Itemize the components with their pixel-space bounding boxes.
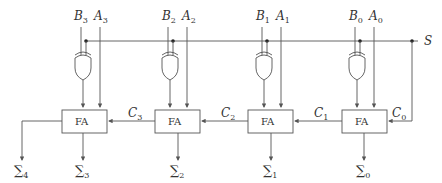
- svg-text:∑4: ∑4: [14, 163, 28, 180]
- label-s: S: [424, 34, 432, 48]
- svg-text:FA: FA: [75, 116, 89, 127]
- svg-text:A1: A1: [275, 9, 290, 25]
- stage-0: B0 A0 FA ∑0: [342, 9, 387, 180]
- adder-subtractor-diagram: S B3 A3 FA ∑3 ∑4 C3 B2 A2 FA ∑2 C2: [0, 0, 442, 183]
- svg-text:∑3: ∑3: [75, 163, 89, 180]
- stage-2: B2 A2 FA ∑2: [155, 9, 200, 180]
- label-b3: B3: [73, 9, 88, 25]
- svg-text:∑1: ∑1: [263, 163, 277, 180]
- xor-gate-icon: [75, 52, 91, 80]
- xor-gate-icon: [162, 52, 178, 80]
- label-c1: C1: [314, 106, 328, 122]
- svg-text:∑2: ∑2: [170, 163, 184, 180]
- svg-text:A0: A0: [368, 9, 383, 25]
- svg-text:FA: FA: [355, 116, 369, 127]
- label-c3: C3: [128, 106, 142, 122]
- svg-text:B1: B1: [255, 9, 270, 25]
- xor-gate-icon: [256, 52, 272, 80]
- label-c2: C2: [221, 106, 235, 122]
- svg-text:A2: A2: [181, 9, 196, 25]
- xor-gate-icon: [349, 52, 365, 80]
- stage-1: B1 A1 FA ∑1: [248, 9, 293, 180]
- svg-text:∑0: ∑0: [356, 163, 370, 180]
- label-c0: C0: [392, 106, 406, 122]
- svg-text:FA: FA: [261, 116, 275, 127]
- stage-3: B3 A3 FA ∑3 ∑4: [14, 9, 108, 180]
- label-a3: A3: [93, 9, 108, 25]
- svg-text:B0: B0: [348, 9, 363, 25]
- svg-text:B2: B2: [161, 9, 176, 25]
- svg-text:FA: FA: [168, 116, 182, 127]
